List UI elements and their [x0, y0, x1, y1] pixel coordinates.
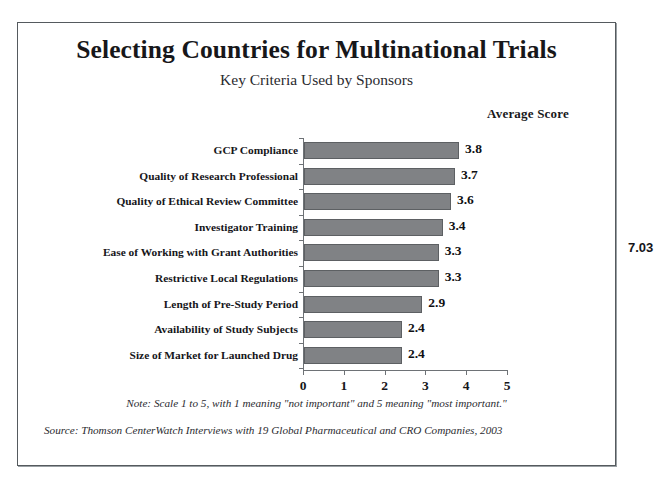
- category-label: Ease of Working with Grant Authorities: [103, 240, 298, 266]
- category-axis-tick: [299, 138, 303, 139]
- category-label: GCP Compliance: [214, 138, 298, 164]
- category-axis-tick: [299, 266, 303, 267]
- category-axis-tick: [299, 343, 303, 344]
- note-footnote: Note: Scale 1 to 5, with 1 meaning "not …: [18, 397, 615, 409]
- bar-value-label: 3.3: [445, 243, 462, 259]
- value-axis-tick: [466, 370, 467, 375]
- bar-value-label: 3.4: [449, 218, 466, 234]
- bar[interactable]: [304, 142, 459, 159]
- plot-area: GCP Compliance Quality of Research Profe…: [18, 138, 617, 393]
- category-label: Quality of Research Professional: [139, 164, 298, 190]
- bar-value-label: 3.7: [461, 167, 478, 183]
- chart-subtitle: Key Criteria Used by Sponsors: [18, 71, 615, 89]
- figure-root: Selecting Countries for Multinational Tr…: [0, 0, 670, 477]
- bar-value-label: 3.3: [445, 269, 462, 285]
- value-axis-tick-label: 0: [291, 378, 315, 394]
- category-label: Availability of Study Subjects: [154, 317, 298, 343]
- category-axis-tick: [299, 189, 303, 190]
- bar-value-label: 2.9: [428, 295, 445, 311]
- value-axis-caption: Average Score: [487, 106, 569, 122]
- value-axis-tick: [303, 370, 304, 375]
- page-marker: 7.03: [628, 240, 653, 255]
- category-axis-tick: [299, 215, 303, 216]
- value-axis-tick-label: 4: [454, 378, 478, 394]
- category-label: Restrictive Local Regulations: [155, 266, 298, 292]
- category-axis-tick: [299, 164, 303, 165]
- bar[interactable]: [304, 219, 443, 236]
- bar-value-label: 2.4: [408, 320, 425, 336]
- bar[interactable]: [304, 321, 402, 338]
- bar[interactable]: [304, 296, 422, 313]
- category-label: Quality of Ethical Review Committee: [116, 189, 298, 215]
- bar[interactable]: [304, 168, 455, 185]
- value-axis-tick: [425, 370, 426, 375]
- category-label: Length of Pre-Study Period: [164, 292, 298, 318]
- value-axis-tick-label: 1: [332, 378, 356, 394]
- bar[interactable]: [304, 347, 402, 364]
- value-axis-tick: [507, 370, 508, 375]
- bar[interactable]: [304, 193, 451, 210]
- bar-value-label: 3.8: [465, 141, 482, 157]
- value-axis-tick-label: 5: [495, 378, 519, 394]
- bar-value-label: 3.6: [457, 192, 474, 208]
- category-axis-tick: [299, 292, 303, 293]
- category-axis-tick: [299, 240, 303, 241]
- category-label: Size of Market for Launched Drug: [130, 343, 298, 369]
- source-footnote: Source: Thomson CenterWatch Interviews w…: [44, 424, 502, 436]
- bar-value-label: 2.4: [408, 346, 425, 362]
- value-axis: 0 1 2 3 4 5: [303, 370, 533, 400]
- bar[interactable]: [304, 244, 439, 261]
- page-title: Selecting Countries for Multinational Tr…: [18, 35, 615, 65]
- category-axis-labels: GCP Compliance Quality of Research Profe…: [18, 138, 303, 370]
- value-axis-tick: [385, 370, 386, 375]
- bars-region: 3.8 3.7 3.6 3.4 3.3: [303, 138, 533, 370]
- category-label: Investigator Training: [195, 215, 298, 241]
- value-axis-line: [303, 370, 507, 371]
- value-axis-tick: [344, 370, 345, 375]
- category-axis-tick: [299, 317, 303, 318]
- value-axis-tick-label: 2: [373, 378, 397, 394]
- bar[interactable]: [304, 270, 439, 287]
- chart-frame: Selecting Countries for Multinational Tr…: [17, 22, 616, 466]
- value-axis-tick-label: 3: [413, 378, 437, 394]
